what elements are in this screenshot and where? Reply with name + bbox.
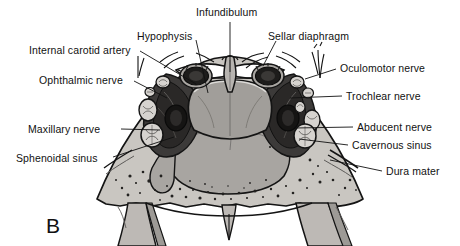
internal-carotid-artery-left bbox=[180, 63, 212, 88]
label-trochlear-nerve: Trochlear nerve bbox=[346, 90, 421, 102]
anatomical-figure: Infundibulum Hypophysis Sellar diaphragm… bbox=[0, 0, 460, 246]
label-oculomotor-nerve: Oculomotor nerve bbox=[340, 62, 425, 74]
label-hypophysis: Hypophysis bbox=[137, 30, 192, 42]
label-abducent-nerve: Abducent nerve bbox=[357, 121, 432, 133]
label-maxillary-nerve: Maxillary nerve bbox=[28, 123, 100, 135]
pterygoid-processes bbox=[118, 203, 352, 246]
label-sphenoidal-sinus: Sphenoidal sinus bbox=[16, 152, 98, 164]
label-cavernous-sinus: Cavernous sinus bbox=[352, 139, 432, 151]
label-infundibulum: Infundibulum bbox=[196, 6, 257, 18]
internal-carotid-artery-right bbox=[252, 63, 284, 88]
panel-letter: B bbox=[46, 214, 60, 238]
label-internal-carotid-artery: Internal carotid artery bbox=[29, 44, 131, 56]
label-sellar-diaphragm: Sellar diaphragm bbox=[268, 30, 349, 42]
label-ophthalmic-nerve: Ophthalmic nerve bbox=[39, 74, 123, 86]
leader-sellar-diaphragm bbox=[263, 41, 276, 66]
label-dura-mater: Dura mater bbox=[386, 165, 440, 177]
